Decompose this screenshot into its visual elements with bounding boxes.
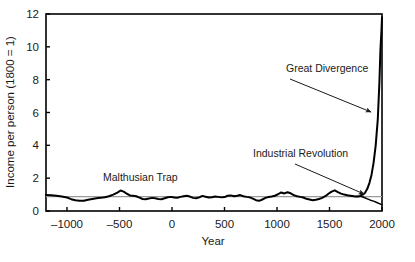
y-tick-label-4: 4: [33, 139, 40, 151]
x-tick-label--1000: –1000: [51, 218, 83, 230]
x-tick-label-500: 500: [215, 218, 234, 230]
x-tick-label-1000: 1000: [264, 218, 290, 230]
y-tick-label-0: 0: [33, 205, 39, 217]
y-tick-label-8: 8: [33, 74, 39, 86]
income-per-person-line-chart: 024681012 –1000–5000500100015002000 Malt…: [0, 0, 415, 262]
great-divergence-label: Great Divergence: [286, 62, 368, 74]
industrial-revolution-label: Industrial Revolution: [253, 147, 348, 159]
y-tick-label-6: 6: [33, 107, 39, 119]
x-tick-label-2000: 2000: [369, 218, 395, 230]
y-tick-label-12: 12: [26, 8, 39, 20]
x-tick-label--500: –500: [107, 218, 133, 230]
x-axis-title: Year: [201, 235, 224, 247]
x-tick-label-1500: 1500: [317, 218, 343, 230]
y-tick-label-10: 10: [26, 41, 39, 53]
y-tick-label-2: 2: [33, 172, 39, 184]
x-tick-label-0: 0: [169, 218, 175, 230]
malthusian-trap-label: Malthusian Trap: [103, 171, 178, 183]
y-axis-title: Income per person (1800 = 1): [4, 36, 16, 188]
chart-figure: 024681012 –1000–5000500100015002000 Malt…: [0, 0, 415, 262]
